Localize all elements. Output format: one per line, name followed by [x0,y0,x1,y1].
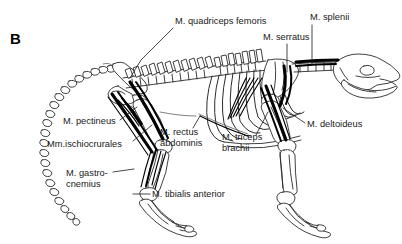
skull [333,54,399,98]
label-gastrocnemius-line1: M. gastro- [66,168,108,178]
label-deltoideus: M. deltoideus [307,119,363,129]
label-tibialis-anterior: M. tibialis anterior [152,189,225,199]
label-pectineus: M. pectineus [63,116,116,126]
radius-ulna [277,150,297,205]
fore-foot [277,203,330,238]
label-triceps-brachii-line1: M. triceps [222,132,263,142]
label-quadriceps-femoris: M. quadriceps femoris [175,16,267,26]
skeleton-illustration: B [0,0,402,244]
anatomical-figure: B [0,0,402,244]
panel-letter: B [10,30,21,47]
hind-foot [139,199,196,237]
label-rectus-abdominis-line1: M. rectus [160,127,199,137]
label-ischiocrurales: Mm.ischiocrurales [47,139,122,149]
label-triceps-brachii-line2: brachii [222,143,249,153]
label-serratus: M. serratus [263,32,310,42]
leader-gastrocnemius [113,169,134,172]
label-gastrocnemius-line2: cnemius [66,179,101,189]
label-splenii: M. splenii [310,12,349,22]
label-rectus-abdominis-line2: abdominis [160,138,203,148]
